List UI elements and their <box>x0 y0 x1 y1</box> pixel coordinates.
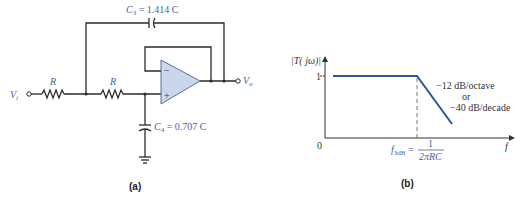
opamp-plus-sign: + <box>164 90 170 101</box>
slope-label-octave: −12 dB/octave <box>436 80 495 91</box>
figure-canvas: Vi R R C3 = 1.414 C − + Vo <box>0 0 522 199</box>
circuit-diagram: Vi R R C3 = 1.414 C − + Vo <box>10 4 253 192</box>
resistor-r2 <box>101 90 123 98</box>
cutoff-denominator: 2πRC <box>419 151 442 162</box>
slope-label-decade: −40 dB/decade <box>450 102 511 113</box>
junction-node <box>209 79 212 82</box>
r2-label: R <box>109 76 116 87</box>
x-axis-arrow-icon <box>509 135 515 141</box>
vo-label: Vo <box>243 75 253 88</box>
resistor-r1 <box>42 90 64 98</box>
junction-node <box>222 79 225 82</box>
caption-b: (b) <box>401 178 414 189</box>
r1-label: R <box>49 76 56 87</box>
frequency-response-plot: |T( jω)| 1 0 f −12 dB/octave or −40 dB/d… <box>291 55 515 189</box>
slope-label-or: or <box>462 91 471 102</box>
ground-icon <box>139 157 151 163</box>
origin-label: 0 <box>317 140 322 151</box>
vi-label: Vi <box>10 89 18 102</box>
y-axis-arrow-icon <box>322 56 328 62</box>
cutoff-numerator: 1 <box>428 138 433 149</box>
vo-terminal <box>236 79 240 83</box>
magnitude-curve <box>333 76 452 124</box>
opamp-minus-sign: − <box>164 65 170 76</box>
c3-label: C3 = 1.414 C <box>126 4 179 17</box>
x-axis-label: f <box>505 141 509 152</box>
c4-label: C4 = 0.707 C <box>154 121 207 134</box>
y-axis-label: |T( jω)| <box>291 55 321 67</box>
vi-terminal <box>27 92 31 96</box>
caption-a: (a) <box>129 181 141 192</box>
cutoff-frequency-label: f3dB = <box>391 144 414 157</box>
